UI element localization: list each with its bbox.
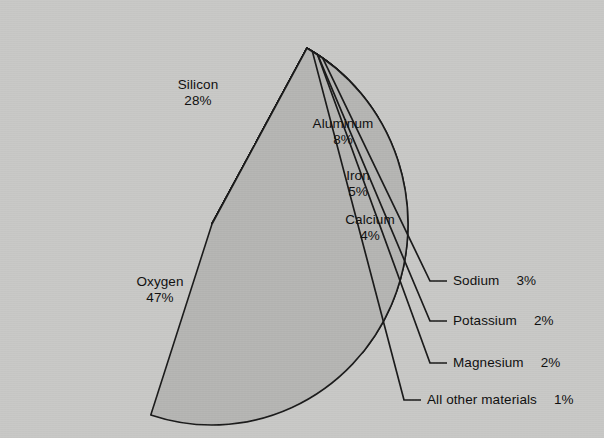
slice-label-name: Aluminum <box>283 116 403 132</box>
slice-label-value: 8% <box>283 132 403 148</box>
slice-label-value: 28% <box>138 93 258 109</box>
slice-label-name: Oxygen <box>100 274 220 290</box>
callout-label-name: Potassium <box>453 313 517 329</box>
callout-label-sodium: Sodium3% <box>453 273 536 289</box>
callout-label-value: 3% <box>516 273 536 289</box>
slice-label-calcium: Calcium4% <box>310 212 430 244</box>
slice-label-oxygen: Oxygen47% <box>100 274 220 306</box>
slice-label-name: Silicon <box>138 77 258 93</box>
slice-label-silicon: Silicon28% <box>138 77 258 109</box>
slice-label-aluminum: Aluminum8% <box>283 116 403 148</box>
callout-label-magnesium: Magnesium2% <box>453 355 560 371</box>
slice-label-value: 4% <box>310 228 430 244</box>
pie-chart-canvas <box>0 0 604 438</box>
slice-label-name: Calcium <box>310 212 430 228</box>
callout-label-value: 2% <box>541 355 561 371</box>
callout-label-name: All other materials <box>427 392 537 408</box>
callout-label-all-other-materials: All other materials1% <box>427 392 574 408</box>
callout-label-name: Sodium <box>453 273 499 289</box>
pie-chart: Silicon28%Aluminum8%Iron5%Calcium4%Oxyge… <box>0 0 604 438</box>
slice-label-value: 47% <box>100 290 220 306</box>
callout-label-name: Magnesium <box>453 355 524 371</box>
callout-label-value: 2% <box>534 313 554 329</box>
slice-label-iron: Iron5% <box>298 168 418 200</box>
callout-label-value: 1% <box>554 392 574 408</box>
slice-label-name: Iron <box>298 168 418 184</box>
callout-label-potassium: Potassium2% <box>453 313 554 329</box>
slice-label-value: 5% <box>298 184 418 200</box>
